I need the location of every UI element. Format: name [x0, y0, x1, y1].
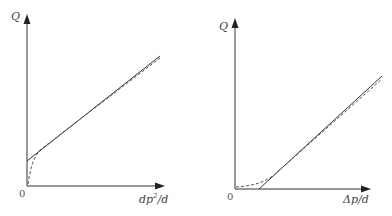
y-axis-arrow-icon [232, 18, 239, 28]
y-axis-label: Q [219, 20, 228, 33]
x-axis-label: dp2/d [139, 192, 168, 206]
y-axis-label: Q [11, 10, 20, 23]
origin-label: 0 [19, 188, 25, 199]
x-axis-arrow-icon [155, 183, 165, 190]
x-axis-arrow-icon [361, 186, 371, 193]
x-axis-label: Δp/d [343, 193, 369, 206]
chart-left-plot [0, 0, 196, 216]
y-axis-arrow-icon [24, 14, 31, 24]
chart-right: Q 0 Δp/d [196, 0, 392, 216]
origin-label: 0 [227, 191, 233, 202]
chart-left: Q 0 dp2/d [0, 0, 196, 216]
